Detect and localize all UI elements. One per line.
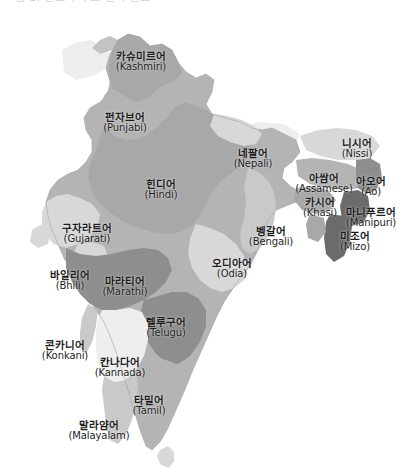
india-language-map-figure: 카슈미르어(Kashmiri)펀자브어(Punjabi)힌디어(Hindi)네팔… xyxy=(0,10,419,469)
island-sri-lanka xyxy=(157,446,174,468)
map-label-gujarati-english: (Gujarati) xyxy=(62,234,111,245)
map-label-khasi: 카시어(Khasi) xyxy=(303,197,337,219)
map-label-ao: 아오어(Ao) xyxy=(356,176,385,198)
map-label-hindi-english: (Hindi) xyxy=(145,190,178,201)
map-label-nissi: 니시어(Nissi) xyxy=(342,138,373,160)
map-label-manipuri: 마니푸르어(Manipuri) xyxy=(346,207,396,229)
map-label-tamil-english: (Tamil) xyxy=(133,406,166,417)
map-label-ao-english: (Ao) xyxy=(356,187,385,198)
map-label-marathi: 마라티어(Marathi) xyxy=(103,276,148,298)
map-label-assamese-english: (Assamese) xyxy=(295,184,352,195)
map-label-kannada: 칸나다어(Kannada) xyxy=(95,357,146,379)
map-label-khasi-english: (Khasi) xyxy=(303,208,337,219)
map-label-punjabi: 펀자브어(Punjabi) xyxy=(103,112,146,134)
map-label-telugu: 텔루구어(Telugu) xyxy=(146,317,185,339)
map-label-bengali: 벵갈어(Bengali) xyxy=(249,226,293,248)
map-label-malayalam-english: (Malayalam) xyxy=(68,431,129,442)
clipped-top-caption: 그림 1. 인도의 주요 언어 분포 xyxy=(0,0,419,10)
clipped-top-caption-text: 그림 1. 인도의 주요 언어 분포 xyxy=(4,0,151,4)
map-label-kashmiri-english: (Kashmiri) xyxy=(116,62,166,73)
map-label-manipuri-english: (Manipuri) xyxy=(346,218,396,229)
map-label-konkani: 콘카니어(Konkani) xyxy=(42,340,88,362)
map-label-mizo: 미조어(Mizo) xyxy=(340,231,370,253)
map-label-nepali-english: (Nepali) xyxy=(234,159,273,170)
map-label-kashmiri: 카슈미르어(Kashmiri) xyxy=(116,51,166,73)
map-label-konkani-english: (Konkani) xyxy=(42,351,88,362)
map-label-bhili: 바일리어(Bhili) xyxy=(50,270,89,292)
map-label-nissi-english: (Nissi) xyxy=(342,149,373,160)
map-label-bhili-english: (Bhili) xyxy=(50,281,89,292)
map-label-odia-english: (Odia) xyxy=(212,269,251,280)
map-label-mizo-english: (Mizo) xyxy=(340,242,370,253)
map-label-bengali-english: (Bengali) xyxy=(249,237,293,248)
map-label-malayalam: 말라얌어(Malayalam) xyxy=(68,420,129,442)
map-label-kannada-english: (Kannada) xyxy=(95,368,146,379)
map-label-nepali: 네팔어(Nepali) xyxy=(234,148,273,170)
map-label-telugu-english: (Telugu) xyxy=(146,328,185,339)
map-label-tamil: 타밀어(Tamil) xyxy=(133,395,166,417)
map-label-punjabi-english: (Punjabi) xyxy=(103,123,146,134)
map-label-gujarati: 구자라트어(Gujarati) xyxy=(62,223,111,245)
map-label-assamese: 아쌈어(Assamese) xyxy=(295,173,352,195)
map-label-odia: 오디아어(Odia) xyxy=(212,258,251,280)
map-label-hindi: 힌디어(Hindi) xyxy=(145,179,178,201)
map-label-marathi-english: (Marathi) xyxy=(103,287,148,298)
